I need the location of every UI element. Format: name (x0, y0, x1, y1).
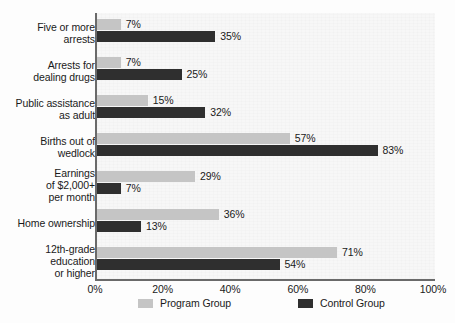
bar-group: 7%35% (97, 19, 435, 51)
x-tick-60: 60% (287, 283, 308, 295)
bar-value-label: 7% (126, 19, 141, 30)
legend-label: Control Group (320, 297, 385, 309)
bar-value-label: 36% (224, 209, 245, 220)
bar-program (97, 209, 219, 220)
bar-program (97, 133, 290, 144)
x-tick-0: 0% (88, 283, 103, 295)
bar-program (97, 171, 195, 182)
x-tick-40: 40% (220, 283, 241, 295)
bar-value-label: 7% (126, 183, 141, 194)
bar-group: 36%13% (97, 209, 435, 241)
bar-value-label: 15% (153, 95, 174, 106)
legend-label: Program Group (160, 297, 231, 309)
category-label: Births out of wedlock (40, 135, 95, 159)
bar-chart: Five or more arrestsArrests for dealing … (0, 0, 455, 323)
category-label: Five or more arrests (37, 21, 95, 45)
bar-group: 15%32% (97, 95, 435, 127)
bar-control (97, 183, 121, 194)
legend-item-program[interactable]: Program Group (138, 297, 231, 309)
bar-control (97, 259, 280, 270)
legend-item-control[interactable]: Control Group (298, 297, 385, 309)
bar-control (97, 145, 378, 156)
bar-control (97, 31, 215, 42)
bar-value-label: 54% (285, 259, 306, 270)
x-tick-80: 80% (355, 283, 376, 295)
bar-value-label: 71% (342, 247, 363, 258)
x-tick-20: 20% (152, 283, 173, 295)
category-label: Public assistance as adult (16, 97, 95, 121)
bar-group: 57%83% (97, 133, 435, 165)
bar-value-label: 32% (210, 107, 231, 118)
bar-group: 7%25% (97, 57, 435, 89)
bar-control (97, 221, 141, 232)
legend-swatch-icon (298, 299, 313, 308)
category-label: 12th-grade education or higher (45, 243, 95, 279)
bar-program (97, 57, 121, 68)
category-label: Earnings of $2,000+ per month (46, 167, 95, 203)
x-tick-100: 100% (420, 283, 446, 295)
bar-value-label: 13% (146, 221, 167, 232)
category-label: Home ownership (18, 217, 95, 229)
plot-area: 7%35%7%25%15%32%57%83%29%7%36%13%71%54% (95, 13, 435, 281)
bar-value-label: 35% (220, 31, 241, 42)
bar-value-label: 29% (200, 171, 221, 182)
bar-group: 71%54% (97, 247, 435, 279)
bar-program (97, 247, 337, 258)
bar-value-label: 7% (126, 57, 141, 68)
bar-group: 29%7% (97, 171, 435, 203)
bar-value-label: 83% (383, 145, 404, 156)
bar-value-label: 25% (187, 69, 208, 80)
category-label: Arrests for dealing drugs (33, 59, 95, 83)
bar-control (97, 107, 205, 118)
legend-swatch-icon (138, 299, 153, 308)
chart-legend: Program GroupControl Group (0, 297, 455, 313)
bar-program (97, 95, 148, 106)
bar-control (97, 69, 182, 80)
bar-program (97, 19, 121, 30)
bar-value-label: 57% (295, 133, 316, 144)
